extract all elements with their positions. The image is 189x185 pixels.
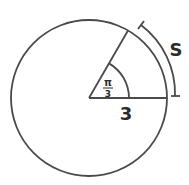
circle-diagram: π 3 3 S [0, 0, 189, 185]
radius-label: 3 [120, 103, 133, 124]
angle-numerator-label: π [104, 77, 112, 88]
angle-denominator-label: 3 [105, 89, 111, 99]
angle-arc [109, 63, 129, 98]
arc-length-label: S [170, 39, 183, 60]
